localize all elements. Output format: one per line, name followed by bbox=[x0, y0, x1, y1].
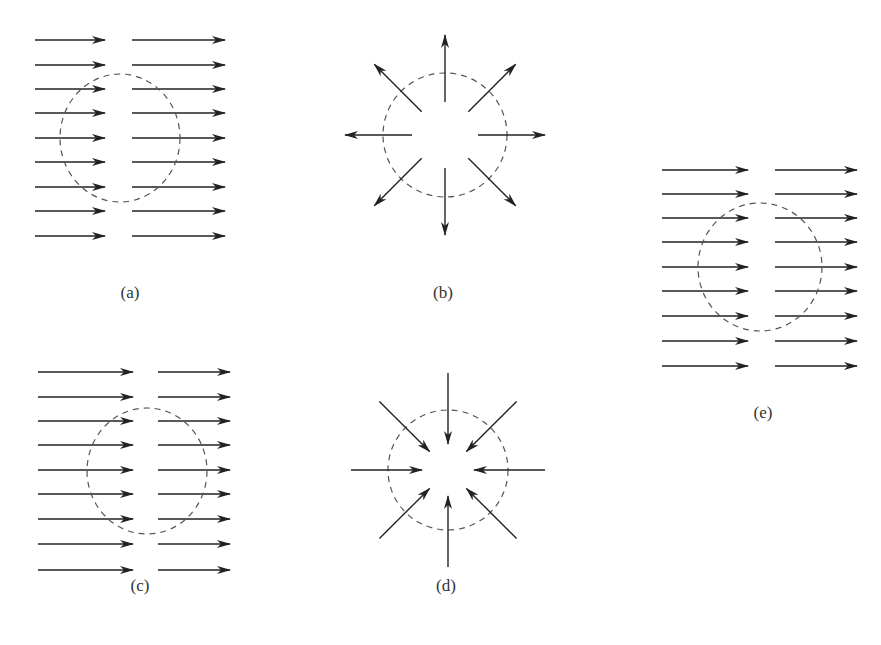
panel-label-e: (e) bbox=[754, 403, 773, 423]
inward-field-arrow bbox=[379, 488, 429, 538]
panel-a bbox=[35, 40, 225, 236]
panel-c bbox=[38, 372, 230, 570]
panel-d bbox=[351, 373, 545, 567]
panel-label-c: (c) bbox=[131, 576, 150, 596]
panel-e bbox=[662, 170, 857, 366]
gaussian-surface-circle bbox=[87, 408, 207, 534]
panel-b bbox=[345, 35, 545, 235]
panel-label-a: (a) bbox=[121, 283, 140, 303]
inward-field-arrow bbox=[466, 488, 516, 538]
outward-field-arrow bbox=[374, 64, 421, 111]
outward-field-arrow bbox=[374, 158, 421, 205]
outward-field-arrow bbox=[468, 158, 515, 205]
field-lines-figure bbox=[0, 0, 881, 645]
outward-field-arrow bbox=[468, 64, 515, 111]
inward-field-arrow bbox=[466, 401, 516, 451]
inward-field-arrow bbox=[379, 401, 429, 451]
panel-label-d: (d) bbox=[436, 576, 456, 596]
panel-label-b: (b) bbox=[433, 283, 453, 303]
